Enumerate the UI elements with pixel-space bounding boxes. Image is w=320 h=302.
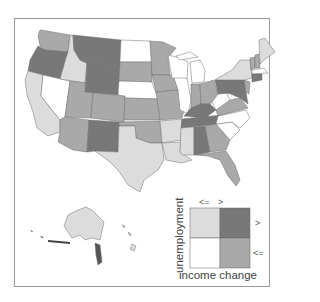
state-wyoming: [85, 63, 120, 95]
state-maine: [259, 38, 275, 64]
state-new-hampshire: [255, 54, 260, 68]
state-new-mexico: [87, 120, 119, 152]
state-north-dakota: [120, 40, 152, 62]
legend-col-label-gt: >: [218, 198, 223, 207]
legend-x-axis-label: income change: [179, 270, 257, 282]
state-mississippi: [180, 127, 194, 155]
state-connecticut: [252, 74, 262, 82]
state-colorado: [91, 93, 125, 122]
state-hawaii: [122, 225, 136, 251]
state-alaska-aleutians: [30, 230, 70, 244]
legend-cell-low-unemp-high-income: [220, 238, 250, 268]
state-massachusetts: [252, 68, 268, 74]
legend-row-label-gt: >: [255, 219, 260, 228]
state-pennsylvania: [215, 78, 246, 94]
state-south-dakota: [119, 62, 152, 82]
state-arizona: [58, 117, 89, 152]
state-arkansas: [160, 119, 182, 143]
state-vermont: [250, 57, 255, 70]
legend-col-label-lte: <=: [199, 198, 210, 207]
state-florida: [196, 151, 240, 186]
state-kansas: [124, 98, 160, 120]
state-alaska: [64, 207, 104, 240]
legend-row-label-lte: <=: [253, 249, 264, 258]
state-alaska-panhandle: [95, 243, 102, 265]
state-new-york: [215, 60, 252, 80]
legend-cell-high-unemp-high-income: [220, 208, 250, 238]
legend-cell-low-unemp-low-income: [190, 238, 220, 268]
bivariate-legend: [190, 208, 250, 268]
legend-y-axis-label: unemployment: [174, 198, 186, 273]
legend-cell-high-unemp-low-income: [190, 208, 220, 238]
